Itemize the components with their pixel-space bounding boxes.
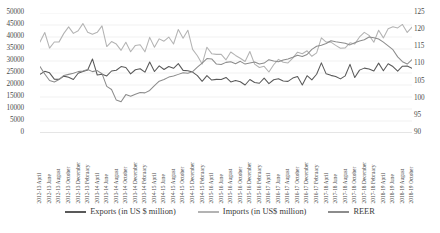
legend-item[interactable]: Imports (in US$ million) <box>198 207 307 216</box>
legend-swatch-icon <box>328 211 349 213</box>
x-tick-label: 2013-14 June <box>104 174 109 203</box>
x-tick-label: 2018-19 October <box>409 166 414 203</box>
x-tick-label: 2016-17 August <box>285 168 290 203</box>
x-tick-label: 2013-14 December <box>132 162 137 203</box>
y-right-tick-110: 110 <box>414 60 440 67</box>
y-left-tick-0: 0 <box>0 129 24 136</box>
x-tick-label: 2014-15 February <box>199 164 204 203</box>
series-line-imports <box>40 24 412 72</box>
x-tick-label: 2015-16 June <box>218 174 223 203</box>
y-right-tick-95: 95 <box>414 112 440 119</box>
legend-label: Exports (in US $ million) <box>90 207 176 216</box>
x-axis-ticks: 2012-13 April2012-13 June2012-13 August2… <box>40 135 412 203</box>
legend-label: Imports (in US$ million) <box>223 207 307 216</box>
legend-item[interactable]: REER <box>328 207 374 216</box>
x-tick-label: 2017-18 October <box>352 166 357 203</box>
x-tick-label: 2016-17 June <box>275 174 280 203</box>
y-right-tick-125: 125 <box>414 9 440 16</box>
x-tick-label: 2012-13 December <box>75 162 80 203</box>
y-right-tick-115: 115 <box>414 43 440 50</box>
x-tick-label: 2015-16 April <box>209 173 214 203</box>
x-tick-label: 2017-18 February <box>371 164 376 203</box>
x-tick-label: 2014-15 October <box>180 166 185 203</box>
x-tick-label: 2012-13 August <box>56 168 61 203</box>
x-tick-label: 2018-19 June <box>390 174 395 203</box>
plot-area <box>40 13 412 133</box>
x-tick-label: 2012-13 June <box>47 174 52 203</box>
x-tick-label: 2017-18 August <box>342 168 347 203</box>
x-tick-label: 2016-17 February <box>314 164 319 203</box>
x-tick-label: 2014-15 August <box>171 168 176 203</box>
x-tick-label: 2016-17 October <box>295 166 300 203</box>
x-tick-label: 2013-14 August <box>113 168 118 203</box>
y-left-tick-25000: 25000 <box>0 69 24 76</box>
y-left-tick-10000: 10000 <box>0 105 24 112</box>
legend-swatch-icon <box>65 211 86 213</box>
chart-container: 2012-13 April2012-13 June2012-13 August2… <box>0 0 440 233</box>
x-tick-label: 2014-15 April <box>151 173 156 203</box>
y-left-tick-20000: 20000 <box>0 81 24 88</box>
x-tick-label: 2012-13 April <box>37 173 42 203</box>
x-tick-label: 2017-18 December <box>361 162 366 203</box>
x-tick-label: 2013-14 April <box>94 173 99 203</box>
y-left-tick-15000: 15000 <box>0 93 24 100</box>
x-tick-label: 2014-15 December <box>190 162 195 203</box>
legend-swatch-icon <box>198 211 219 213</box>
y-right-tick-105: 105 <box>414 78 440 85</box>
x-tick-label: 2013-14 October <box>123 166 128 203</box>
y-right-tick-90: 90 <box>414 129 440 136</box>
x-tick-label: 2015-16 December <box>247 162 252 203</box>
x-tick-label: 2017-18 June <box>333 174 338 203</box>
y-left-tick-5000: 5000 <box>0 117 24 124</box>
y-left-tick-30000: 30000 <box>0 57 24 64</box>
y-right-tick-120: 120 <box>414 26 440 33</box>
y-left-tick-50000: 50000 <box>0 9 24 16</box>
x-tick-label: 2015-16 August <box>228 168 233 203</box>
y-left-tick-35000: 35000 <box>0 45 24 52</box>
x-tick-label: 2016-17 December <box>304 162 309 203</box>
y-left-tick-45000: 45000 <box>0 21 24 28</box>
y-left-tick-40000: 40000 <box>0 33 24 40</box>
series-lines <box>40 13 412 133</box>
legend-label: REER <box>353 207 374 216</box>
x-tick-label: 2017-18 April <box>323 173 328 203</box>
x-tick-label: 2018-19 August <box>399 168 404 203</box>
y-right-tick-100: 100 <box>414 95 440 102</box>
x-tick-label: 2014-15 June <box>161 174 166 203</box>
x-tick-label: 2012-13 October <box>66 166 71 203</box>
x-tick-label: 2016-17 April <box>266 173 271 203</box>
x-tick-label: 2018-19 April <box>380 173 385 203</box>
x-tick-label: 2013-14 February <box>142 164 147 203</box>
chart-legend: Exports (in US $ million)Imports (in US$… <box>0 207 440 216</box>
legend-item[interactable]: Exports (in US $ million) <box>65 207 176 216</box>
x-tick-label: 2015-16 February <box>256 164 261 203</box>
x-tick-label: 2012-13 February <box>85 164 90 203</box>
x-tick-label: 2015-16 October <box>237 166 242 203</box>
